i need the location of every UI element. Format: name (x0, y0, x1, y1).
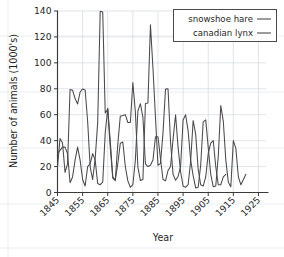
x-tick-label: 1855 (62, 194, 86, 218)
y-tick-label: 40 (40, 135, 52, 146)
x-tick-label: 1875 (112, 194, 136, 218)
x-tick-label: 1895 (163, 194, 187, 218)
x-tick-labels: 184518551865187518851895190519151925 (37, 194, 262, 218)
x-tick-label: 1865 (87, 194, 111, 218)
hare-lynx-line-chart: 020406080100120140 184518551865187518851… (0, 0, 284, 257)
x-tick-label: 1925 (238, 194, 262, 218)
x-axis-title: Year (152, 232, 173, 243)
y-tick-labels: 020406080100120140 (34, 5, 52, 198)
y-axis-title: Number of animals (1000's) (8, 34, 19, 168)
legend-label-canadian-lynx: canadian lynx (193, 28, 253, 38)
x-tick-label: 1915 (213, 194, 237, 218)
y-tick-label: 100 (34, 57, 52, 68)
x-tick-label: 1845 (37, 194, 61, 218)
y-tick-label: 120 (34, 31, 52, 42)
chart-legend[interactable]: snowshoe hare canadian lynx (174, 10, 277, 42)
y-tick-label: 140 (34, 5, 52, 16)
legend-label-snowshoe-hare: snowshoe hare (188, 14, 253, 24)
y-tick-label: 80 (40, 83, 52, 94)
y-tick-label: 60 (40, 109, 52, 120)
x-tick-label: 1885 (138, 194, 162, 218)
x-tick-label: 1905 (188, 194, 212, 218)
y-tick-label: 20 (40, 161, 52, 172)
